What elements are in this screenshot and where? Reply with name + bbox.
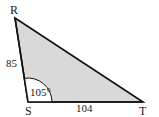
vertex-label-r: R bbox=[10, 3, 18, 17]
angle-label-s: 105° bbox=[30, 86, 51, 98]
side-label-rs: 85 bbox=[6, 57, 18, 69]
triangle-diagram: R 85 105° S 104 T bbox=[0, 0, 159, 117]
vertex-label-t: T bbox=[139, 104, 147, 117]
vertex-label-s: S bbox=[25, 104, 32, 117]
side-label-st: 104 bbox=[76, 102, 93, 114]
